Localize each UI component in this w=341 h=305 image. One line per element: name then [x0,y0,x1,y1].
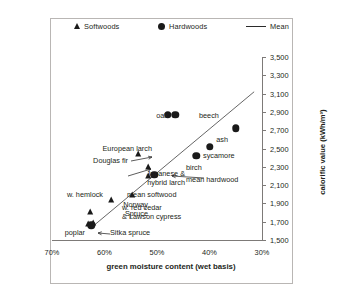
triangle-icon [74,23,80,29]
y-tick [262,94,266,95]
y-tick [262,75,266,76]
annotation-w-hemlock: w. hemlock [67,191,103,200]
data-point-ash [232,125,239,132]
y-tick-label: 2,500 [270,144,289,153]
annotation-poplar: poplar [65,229,85,238]
circle-icon [158,23,165,30]
x-tick-label: 50% [150,248,165,257]
legend-item-hardwoods: Hardwoods [158,19,207,33]
chart-figure: Softwoods Hardwoods Mean 1,5001,7001,900… [0,0,341,305]
annotation-oak: oak [156,112,168,121]
y-tick-label: 1,700 [270,217,289,226]
y-tick [262,112,266,113]
legend-label-softwoods: Softwoods [84,22,119,31]
y-tick [262,240,266,241]
y-tick [262,222,266,223]
y-tick-label: 3,100 [270,89,289,98]
annotation-douglas-fir: Douglas fir [93,157,128,166]
y-tick [262,203,266,204]
data-point-birch [193,152,200,159]
y-tick-label: 2,900 [270,107,289,116]
legend-item-softwoods: Softwoods [74,19,119,33]
annotation-japanese-hybrid-larch: Japanese &hybrid larch [123,170,185,187]
x-axis-line [52,240,263,241]
annotation-w-red-cedar-lawson-cypress: w. red cedar& Lawson cypress [122,204,198,221]
annotation-sycamore: sycamore [203,152,235,161]
y-tick [262,167,266,168]
y-tick [262,130,266,131]
annotation-beech: beech [199,112,219,121]
annotation-mean-hardwood: mean hardwood [186,176,238,185]
x-tick-label: 30% [255,248,270,257]
annotation-birch: birch [186,164,202,173]
x-tick-label: 40% [202,248,217,257]
legend-item-mean: Mean [246,19,289,33]
y-tick-label: 2,100 [270,181,289,190]
y-axis-title: calorific value (kWh/m³) [318,109,327,194]
legend-label-hardwoods: Hardwoods [169,22,207,31]
line-icon [246,26,266,27]
chart-legend: Softwoods Hardwoods Mean [74,19,294,33]
annotation-ash: ash [216,136,228,145]
y-tick-label: 3,300 [270,71,289,80]
x-tick-label: 70% [45,248,60,257]
y-tick-label: 2,300 [270,162,289,171]
annotation-mean-softwood: mean softwood [127,191,177,200]
x-tick-label: 60% [97,248,112,257]
y-tick-label: 1,500 [270,236,289,245]
data-point-poplar [88,222,95,229]
legend-label-mean: Mean [270,22,289,31]
annotation-sitka-spruce: Sitka spruce [110,229,150,238]
y-tick [262,57,266,58]
y-tick-label: 1,900 [270,199,289,208]
y-tick [262,149,266,150]
y-tick-label: 2,700 [270,126,289,135]
x-axis-title: green moisture content (wet basis) [106,262,235,271]
y-tick-label: 3,500 [270,53,289,62]
data-point-sycamore [206,143,213,150]
data-point-beech [172,111,179,118]
annotation-european-larch: European larch [103,145,153,154]
y-tick [262,185,266,186]
